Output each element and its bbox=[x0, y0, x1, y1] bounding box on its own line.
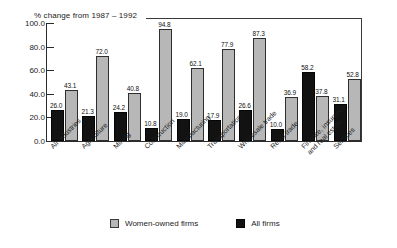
bar-value-label: 52.8 bbox=[347, 71, 359, 78]
bar-value-label: 36.9 bbox=[284, 89, 296, 96]
bar-chart: % change from 1987 – 1992 100.080.060.04… bbox=[0, 0, 397, 248]
bar-value-label: 26.6 bbox=[238, 102, 250, 109]
chart-title: % change from 1987 – 1992 bbox=[34, 11, 137, 20]
bar-value-label: 26.0 bbox=[50, 102, 62, 109]
bar-value-label: 40.8 bbox=[127, 85, 139, 92]
bar-value-label: 21.3 bbox=[81, 108, 93, 115]
bar-value-label: 10.8 bbox=[144, 120, 156, 127]
bar-value-label: 62.1 bbox=[190, 60, 202, 67]
legend-item: All firms bbox=[236, 219, 279, 228]
legend-swatch-black bbox=[236, 219, 245, 228]
y-tick-label: 80.0 bbox=[29, 43, 45, 52]
bar-value-label: 43.1 bbox=[64, 82, 76, 89]
bar-group: 24.240.8 bbox=[114, 23, 142, 141]
legend-item: Women-owned firms bbox=[110, 219, 198, 228]
chart-legend: Women-owned firmsAll firms bbox=[110, 219, 280, 228]
y-tick-label: 100.0 bbox=[25, 19, 45, 28]
legend-swatch-grey bbox=[110, 219, 119, 228]
bar-value-label: 19.0 bbox=[176, 111, 188, 118]
legend-label: Women-owned firms bbox=[125, 219, 198, 228]
legend-label: All firms bbox=[251, 219, 279, 228]
bar-value-label: 87.3 bbox=[252, 30, 264, 37]
bar-value-label: 37.8 bbox=[315, 88, 327, 95]
bar-value-label: 72.0 bbox=[95, 48, 107, 55]
y-tick-label: 0.0 bbox=[34, 137, 45, 146]
bar-value-label: 24.2 bbox=[113, 104, 125, 111]
title-rule bbox=[146, 18, 362, 19]
y-tick-label: 20.0 bbox=[29, 113, 45, 122]
bar-value-label: 10.0 bbox=[270, 121, 282, 128]
bar-value-label: 94.8 bbox=[158, 21, 170, 28]
bar-value-label: 77.9 bbox=[221, 41, 233, 48]
bar-value-label: 58.2 bbox=[301, 64, 313, 71]
y-tick-label: 60.0 bbox=[29, 66, 45, 75]
y-tick-label: 40.0 bbox=[29, 90, 45, 99]
